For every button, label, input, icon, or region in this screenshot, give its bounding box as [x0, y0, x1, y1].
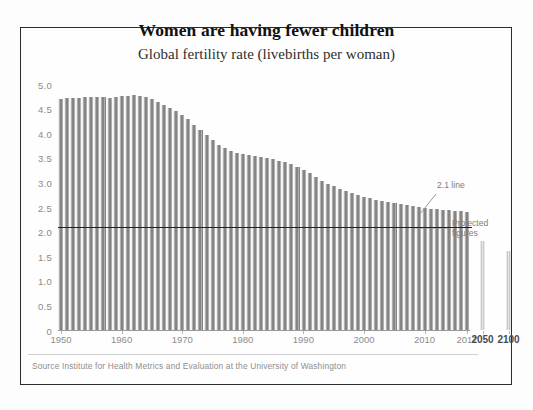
x-tick-mark [303, 331, 304, 334]
x-axis-line [58, 330, 470, 331]
annotation-projected-figures: Projected figures [452, 218, 504, 238]
y-tick-label: 4.5 [38, 104, 52, 115]
y-tick-label: 2.5 [38, 202, 52, 213]
y-tick-label: 5.0 [38, 79, 52, 90]
x-tick-mark [467, 331, 468, 334]
chart-figure: Women are having fewer children Global f… [0, 0, 533, 410]
reference-line-2-1 [58, 227, 472, 228]
annotation-2-1-line: 2.1 line [437, 180, 465, 190]
x-tick-mark [364, 331, 365, 334]
projection-bar [506, 251, 511, 330]
y-tick-label: 0.5 [38, 300, 52, 311]
x-tick-label: 2000 [353, 334, 374, 345]
chart-title: Women are having fewer children [0, 20, 533, 41]
x-tick-label: 1980 [232, 334, 253, 345]
bar-series [58, 84, 470, 330]
chart-subtitle: Global fertility rate (livebirths per wo… [0, 46, 533, 63]
x-tick-label: 1960 [111, 334, 132, 345]
plot-area [58, 84, 470, 330]
y-tick-label: 2.0 [38, 227, 52, 238]
x-tick-mark [243, 331, 244, 334]
x-tick-label: 2010 [414, 334, 435, 345]
projection-tick-label: 2100 [497, 334, 519, 345]
projection-tick-label: 2050 [471, 334, 493, 345]
x-tick-mark [61, 331, 62, 334]
source-note: Source Institute for Health Metrics and … [32, 361, 346, 371]
y-tick-label: 3.0 [38, 177, 52, 188]
y-tick-label: 3.5 [38, 153, 52, 164]
y-tick-label: 1.0 [38, 276, 52, 287]
y-axis-labels: 5.04.54.03.53.02.52.01.51.00.50 [0, 84, 52, 330]
projection-area [470, 84, 530, 330]
source-divider [28, 354, 478, 355]
y-tick-label: 4.0 [38, 128, 52, 139]
x-tick-mark [182, 331, 183, 334]
x-tick-label: 1950 [50, 334, 71, 345]
x-tick-mark [122, 331, 123, 334]
y-tick-label: 1.5 [38, 251, 52, 262]
x-tick-mark [425, 331, 426, 334]
projection-bar [480, 241, 485, 330]
x-tick-label: 1990 [293, 334, 314, 345]
projection-tick-mark [509, 331, 510, 334]
x-tick-label: 1970 [172, 334, 193, 345]
projection-tick-mark [483, 331, 484, 334]
